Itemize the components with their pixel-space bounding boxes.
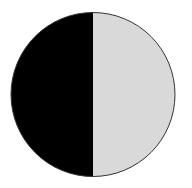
circle-left-half-black: [11, 13, 93, 177]
circle-right-half-gray: [93, 13, 175, 177]
half-shaded-circle-figure: [0, 0, 192, 188]
circle-diagram: [0, 0, 192, 188]
